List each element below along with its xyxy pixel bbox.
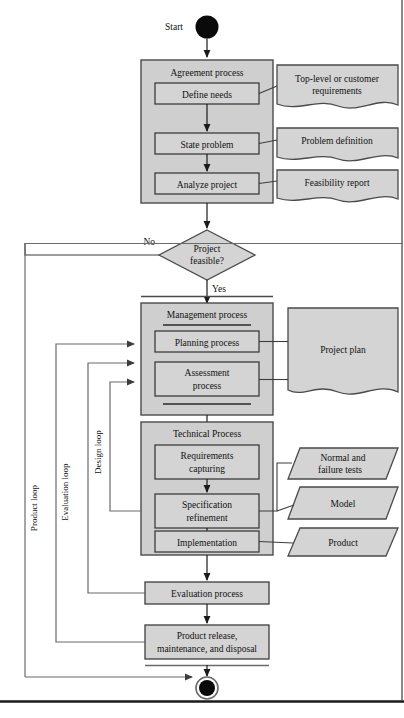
node-implementation: Implementation <box>155 531 259 552</box>
loop-evaluation-label: Evaluation loop <box>60 463 70 521</box>
edge-evaluation-process-loop <box>88 363 145 593</box>
node-assessment-process-line1: Assessment <box>185 368 230 378</box>
decision-branch-yes-label: Yes <box>212 284 226 294</box>
node-analyze-project: Analyze project <box>155 173 259 194</box>
document-project-plan: Project plan <box>288 308 398 394</box>
node-analyze-project-label: Analyze project <box>177 180 238 190</box>
loop-design-label: Design loop <box>93 430 103 474</box>
node-product-release-line1: Product release, <box>177 631 238 641</box>
container-agreement-title: Agreement process <box>170 68 243 78</box>
node-specification-refinement: Specification refinement <box>155 494 259 528</box>
node-state-problem: State problem <box>155 133 259 154</box>
container-management-title: Management process <box>167 310 248 320</box>
document-top-level-requirements-line1: Top-level or customer <box>295 74 380 84</box>
document-top-level-requirements-line2: requirements <box>312 86 362 96</box>
node-planning-process-label: Planning process <box>175 338 240 348</box>
artifact-normal-failure-tests: Normal and failure tests <box>288 448 398 479</box>
node-implementation-label: Implementation <box>177 538 237 548</box>
node-requirements-capturing: Requirements capturing <box>155 445 259 479</box>
artifact-normal-failure-tests-line1: Normal and <box>320 453 365 463</box>
document-problem-definition-line1: Problem definition <box>301 136 373 146</box>
artifact-model: Model <box>288 487 398 519</box>
artifact-product-line1: Product <box>328 538 358 548</box>
start-node: Start <box>165 16 218 39</box>
edge-no-to-product-loop <box>25 243 159 255</box>
node-requirements-capturing-line1: Requirements <box>181 451 234 461</box>
node-planning-process: Planning process <box>155 331 259 352</box>
node-define-needs: Define needs <box>155 83 259 104</box>
edge-design-loop <box>110 382 141 511</box>
start-label: Start <box>165 22 183 32</box>
document-top-level-requirements: Top-level or customer requirements <box>277 65 398 108</box>
document-problem-definition: Problem definition <box>277 128 398 161</box>
decision-branch-no-label: No <box>143 237 155 247</box>
node-product-release: Product release, maintenance, and dispos… <box>145 625 269 659</box>
node-specification-refinement-line1: Specification <box>182 500 232 510</box>
node-assessment-process-line2: process <box>193 381 222 391</box>
flowchart-canvas: Start Agreement process Define needs Sta… <box>0 0 404 718</box>
node-evaluation-process-label: Evaluation process <box>171 589 243 599</box>
decision-line2: feasible? <box>190 256 224 266</box>
node-state-problem-label: State problem <box>180 140 234 150</box>
node-product-release-line2: maintenance, and disposal <box>157 644 257 654</box>
node-requirements-capturing-line2: capturing <box>189 464 225 474</box>
artifact-normal-failure-tests-line2: failure tests <box>318 465 362 475</box>
document-project-plan-line1: Project plan <box>320 345 366 355</box>
document-feasibility-report-line1: Feasibility report <box>304 178 370 188</box>
container-technical-title: Technical Process <box>173 429 241 439</box>
artifact-product: Product <box>288 528 398 556</box>
node-evaluation-process: Evaluation process <box>145 582 269 604</box>
decision-project-feasible: Project feasible? <box>159 230 255 280</box>
container-management-process: Management process <box>141 303 273 415</box>
document-feasibility-report: Feasibility report <box>277 170 398 202</box>
node-define-needs-label: Define needs <box>182 90 232 100</box>
decision-line1: Project <box>194 244 221 254</box>
node-assessment-process: Assessment process <box>155 362 259 396</box>
artifact-model-line1: Model <box>331 499 356 509</box>
end-node <box>196 677 218 699</box>
flowchart-figure: Start Agreement process Define needs Sta… <box>0 0 404 718</box>
node-specification-refinement-line2: refinement <box>186 513 228 523</box>
loop-product-label: Product loop <box>29 484 39 531</box>
